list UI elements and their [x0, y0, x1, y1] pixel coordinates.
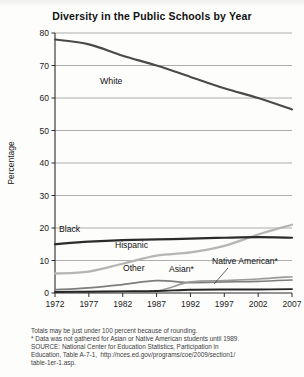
data-series-group: [55, 40, 292, 293]
footnote-rounding: Totals may be just under 100 percent bec…: [31, 327, 297, 335]
footnote-source-line-2: Education, Table A-7-1, http://nces.ed.g…: [31, 351, 297, 359]
footnote-source-line-3: table-1er-1.asp.: [31, 359, 297, 367]
gridlines-group: [55, 33, 292, 261]
x-axis-ticks-group: 19721977198219871992199720022007: [46, 293, 302, 309]
y-axis-tick-label: 60: [40, 93, 50, 103]
series-label-white: White: [100, 76, 123, 86]
y-axis-tick-label: 40: [40, 158, 50, 168]
line-chart: 01020304050607080 1972197719821987199219…: [0, 0, 304, 310]
x-axis-tick-label: 1972: [46, 299, 65, 309]
x-axis-tick-label: 2007: [283, 299, 302, 309]
series-label-asian: Asian*: [169, 264, 194, 274]
y-axis-title: Percentage: [6, 141, 16, 185]
x-axis-tick-label: 1982: [113, 299, 132, 309]
series-line-native-american: [55, 289, 292, 292]
series-label-hispanic: Hispanic: [115, 240, 149, 250]
chart-page: Diversity in the Public Schools by Year …: [0, 0, 304, 377]
y-axis-tick-label: 80: [40, 28, 50, 38]
footnote-source-line-1: SOURCE: National Center for Education St…: [31, 343, 297, 351]
chart-plot-area: 01020304050607080 1972197719821987199219…: [0, 0, 304, 310]
y-axis-tick-label: 50: [40, 126, 50, 136]
y-axis-tick-label: 70: [40, 61, 50, 71]
series-line-white: [55, 40, 292, 110]
x-axis-tick-label: 2002: [249, 299, 268, 309]
x-axis-tick-label: 1992: [181, 299, 200, 309]
y-axis-tick-label: 0: [44, 288, 49, 298]
y-axis-ticks-group: 01020304050607080: [40, 28, 55, 298]
y-axis-tick-label: 30: [40, 191, 50, 201]
series-label-black: Black: [59, 224, 81, 234]
y-axis-tick-label: 20: [40, 223, 50, 233]
series-label-other: Other: [123, 263, 145, 273]
series-line-black: [55, 237, 292, 244]
footnote-block: Totals may be just under 100 percent bec…: [31, 327, 297, 367]
x-axis-tick-label: 1987: [147, 299, 166, 309]
x-axis-tick-label: 1977: [79, 299, 98, 309]
series-line-other: [55, 280, 292, 290]
footnote-asterisk-note: * Data was not gathered for Asian or Nat…: [31, 335, 297, 343]
y-axis-tick-label: 10: [40, 256, 50, 266]
series-label-native-american: Native American*: [212, 256, 279, 266]
x-axis-tick-label: 1997: [215, 299, 234, 309]
